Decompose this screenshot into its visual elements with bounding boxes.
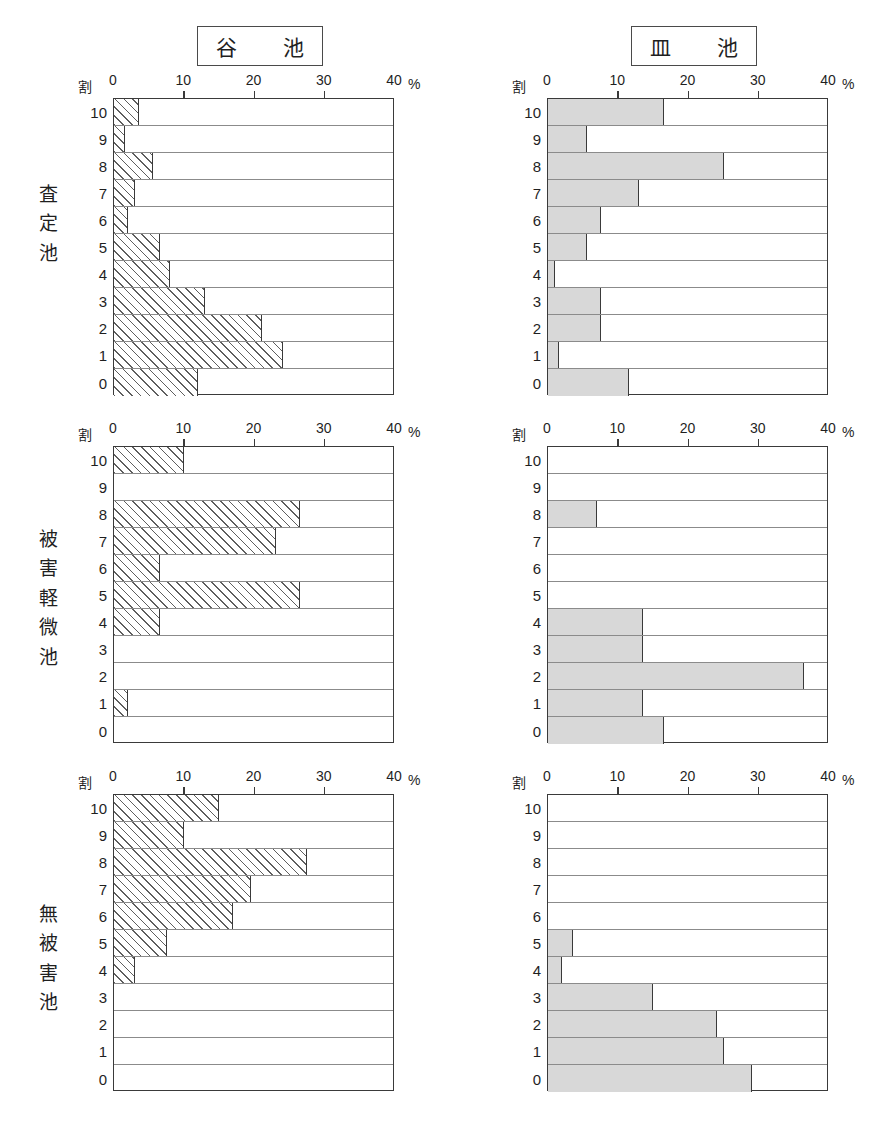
x-axis-percent-symbol: % bbox=[408, 424, 420, 440]
y-axis-tick-label: 4 bbox=[99, 266, 107, 283]
y-axis-unit-label: 割 bbox=[78, 424, 92, 444]
bar bbox=[548, 717, 664, 744]
bar bbox=[548, 663, 804, 689]
bar bbox=[114, 822, 184, 848]
bar bbox=[548, 153, 724, 179]
y-axis-tick-label: 0 bbox=[99, 374, 107, 391]
bar-row: 6 bbox=[548, 207, 827, 234]
bar-row: 5 bbox=[114, 582, 393, 609]
y-axis-tick-label: 6 bbox=[99, 212, 107, 229]
y-axis-tick-label: 3 bbox=[99, 293, 107, 310]
y-axis-tick-label: 7 bbox=[99, 533, 107, 550]
x-axis-tick-label: 10 bbox=[609, 768, 625, 784]
bar bbox=[114, 957, 135, 983]
bar bbox=[548, 957, 562, 983]
y-axis-unit-label: 割 bbox=[78, 772, 92, 792]
y-axis-tick-label: 10 bbox=[90, 104, 107, 121]
column-titles: 谷 池 皿 池 bbox=[0, 26, 885, 68]
bar-row: 9 bbox=[114, 126, 393, 153]
y-axis-tick-label: 5 bbox=[533, 239, 541, 256]
y-axis-tick-label: 2 bbox=[99, 668, 107, 685]
x-axis-tick bbox=[183, 439, 185, 446]
bar-row: 9 bbox=[548, 822, 827, 849]
bar-row: 0 bbox=[114, 717, 393, 744]
y-axis-tick-label: 6 bbox=[533, 560, 541, 577]
y-axis-tick-label: 1 bbox=[533, 347, 541, 364]
bar bbox=[114, 903, 233, 929]
bar bbox=[114, 126, 125, 152]
x-axis-tick-label: 20 bbox=[680, 768, 696, 784]
bar-row: 10 bbox=[548, 795, 827, 822]
bar-row: 1 bbox=[114, 690, 393, 717]
bar bbox=[114, 315, 262, 341]
bar bbox=[548, 930, 573, 956]
y-axis-unit-label: 割 bbox=[512, 424, 526, 444]
bar-row: 5 bbox=[548, 582, 827, 609]
bar bbox=[548, 315, 601, 341]
bar-row: 1 bbox=[548, 1038, 827, 1065]
y-axis-tick-label: 0 bbox=[533, 722, 541, 739]
row-group-label-char: 微 bbox=[28, 613, 68, 642]
bar-row: 3 bbox=[114, 984, 393, 1011]
bar bbox=[114, 261, 170, 287]
x-axis-tick-label: 40 bbox=[820, 768, 836, 784]
bar bbox=[548, 288, 601, 314]
x-axis-tick-label: 20 bbox=[680, 420, 696, 436]
x-axis-tick-label: 0 bbox=[543, 768, 551, 784]
bar bbox=[114, 342, 283, 368]
x-axis-tick-label: 40 bbox=[820, 72, 836, 88]
bar-row: 6 bbox=[114, 207, 393, 234]
x-axis-tick-label: 10 bbox=[175, 72, 191, 88]
chart-panel: 割010203040%109876543210 bbox=[512, 76, 872, 406]
x-axis-tick bbox=[254, 787, 256, 794]
bar-row: 7 bbox=[114, 876, 393, 903]
bar bbox=[114, 582, 300, 608]
plot-area: 109876543210 bbox=[113, 446, 394, 743]
bar-row: 5 bbox=[114, 234, 393, 261]
bar bbox=[114, 849, 307, 875]
y-axis-tick-label: 2 bbox=[99, 1016, 107, 1033]
bar-row: 7 bbox=[548, 876, 827, 903]
y-axis-tick-label: 3 bbox=[99, 989, 107, 1006]
y-axis-tick-label: 2 bbox=[533, 320, 541, 337]
y-axis-tick-label: 7 bbox=[99, 185, 107, 202]
bar-row: 0 bbox=[548, 717, 827, 744]
bar bbox=[548, 342, 559, 368]
bar bbox=[114, 555, 160, 581]
plot-area: 109876543210 bbox=[113, 794, 394, 1091]
x-axis-tick-label: 0 bbox=[543, 420, 551, 436]
bar-row: 4 bbox=[114, 957, 393, 984]
bar-row: 6 bbox=[548, 903, 827, 930]
x-axis-tick-label: 0 bbox=[109, 768, 117, 784]
bar-rows: 109876543210 bbox=[548, 447, 827, 742]
y-axis-tick-label: 4 bbox=[99, 614, 107, 631]
row-group-label-muhigai-ike: 無被害池 bbox=[28, 900, 68, 1018]
bar bbox=[548, 984, 653, 1010]
bar-row: 5 bbox=[548, 930, 827, 957]
bar-row: 8 bbox=[114, 501, 393, 528]
chart-panel: 割010203040%109876543210 bbox=[512, 772, 872, 1102]
y-axis-tick-label: 8 bbox=[99, 158, 107, 175]
bar-row: 8 bbox=[548, 153, 827, 180]
row-group-label-char: 害 bbox=[28, 554, 68, 583]
row-group-label-char: 池 bbox=[28, 988, 68, 1017]
x-axis-tick-label: 10 bbox=[609, 420, 625, 436]
x-axis-percent-symbol: % bbox=[842, 424, 854, 440]
bar bbox=[114, 234, 160, 260]
y-axis-tick-label: 3 bbox=[533, 989, 541, 1006]
plot-area: 109876543210 bbox=[547, 446, 828, 743]
bar bbox=[548, 609, 643, 635]
row-group-label-char: 軽 bbox=[28, 584, 68, 613]
y-axis-tick-label: 2 bbox=[99, 320, 107, 337]
bar-row: 4 bbox=[548, 957, 827, 984]
x-axis-tick-label: 0 bbox=[109, 72, 117, 88]
y-axis-tick-label: 1 bbox=[533, 1043, 541, 1060]
y-axis-unit-label: 割 bbox=[512, 76, 526, 96]
bar bbox=[114, 153, 153, 179]
x-axis-tick-label: 20 bbox=[246, 768, 262, 784]
y-axis-tick-label: 7 bbox=[99, 881, 107, 898]
y-axis-tick-label: 8 bbox=[533, 158, 541, 175]
y-axis-tick-label: 1 bbox=[99, 1043, 107, 1060]
y-axis-tick-label: 4 bbox=[533, 614, 541, 631]
bar-row: 10 bbox=[548, 99, 827, 126]
